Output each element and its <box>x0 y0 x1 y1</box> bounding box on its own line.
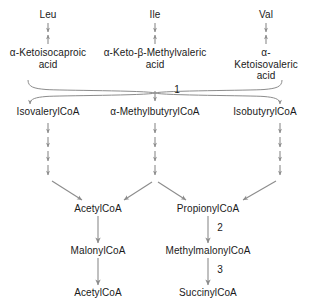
enzyme-label-1: 1 <box>174 84 180 95</box>
node-isobutyryl-coa: IsobutyrylCoA <box>233 106 297 118</box>
node-ketoisovaleric-acid: α-Ketoisovaleric acid <box>234 47 298 82</box>
node-ketoisocaproic-acid: α-Ketoisocaproic acid <box>10 47 86 70</box>
node-ile: Ile <box>150 9 161 21</box>
node-leu: Leu <box>40 9 57 21</box>
node-succinyl-coa: SuccinylCoA <box>179 287 237 299</box>
converging-bracket-upper <box>28 80 155 93</box>
methylbutyryl-to-acetyl-arrow <box>124 182 152 200</box>
isobutyryl-to-propionyl-arrow <box>243 181 276 200</box>
diverging-bracket-lower <box>30 93 155 104</box>
enzyme-label-2: 2 <box>217 222 223 233</box>
node-malonyl-coa: MalonylCoA <box>71 245 126 257</box>
node-keto-methylvaleric-acid: α-Keto-β-Methylvaleric acid <box>104 47 207 70</box>
methylbutyryl-to-propionyl-arrow <box>158 182 186 200</box>
enzyme-label-3: 3 <box>217 264 223 275</box>
node-val: Val <box>259 9 273 21</box>
node-methylbutyryl-coa: α-MethylbutyrylCoA <box>110 106 199 118</box>
isovaleryl-to-acetyl-arrow <box>52 181 82 200</box>
pathway-diagram: Leu Ile Val α-Ketoisocaproic acid α-Keto… <box>0 0 312 307</box>
node-isovaleryl-coa: IsovalerylCoA <box>17 106 80 118</box>
node-propionyl-coa: PropionylCoA <box>177 203 239 215</box>
node-acetyl-coa-middle: AcetylCoA <box>74 203 122 215</box>
node-acetyl-coa-bottom: AcetylCoA <box>74 287 122 299</box>
node-methylmalonyl-coa: MethylmalonylCoA <box>166 245 251 257</box>
